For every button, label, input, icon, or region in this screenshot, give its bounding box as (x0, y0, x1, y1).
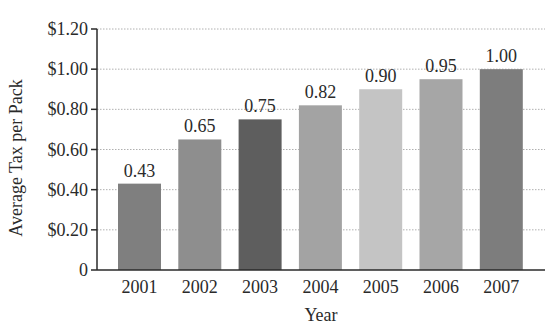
y-tick-label: $0.40 (48, 180, 89, 200)
x-tick-label: 2004 (302, 277, 338, 297)
data-label-2003: 0.75 (244, 96, 276, 116)
bar-chart: 0$0.20$0.40$0.60$0.80$1.00$1.20 20012002… (0, 0, 551, 332)
bar-2001 (118, 184, 161, 270)
x-axis-title: Year (304, 305, 337, 325)
data-label-2006: 0.95 (425, 56, 457, 76)
bar-2003 (239, 119, 282, 270)
x-tick-label: 2007 (483, 277, 519, 297)
data-label-2004: 0.82 (305, 82, 337, 102)
y-axis-title: Average Tax per Pack (6, 79, 26, 237)
x-tick-label: 2001 (122, 277, 158, 297)
y-tick-label: 0 (79, 260, 88, 280)
data-label-2005: 0.90 (365, 66, 397, 86)
y-tick-label: $0.20 (48, 220, 89, 240)
x-tick-labels: 2001200220032004200520062007 (122, 277, 520, 297)
data-label-2001: 0.43 (124, 161, 156, 181)
y-tick-label: $0.60 (48, 140, 89, 160)
bar-2007 (480, 69, 523, 270)
bar-2005 (359, 89, 402, 270)
y-tick-labels: 0$0.20$0.40$0.60$0.80$1.00$1.20 (48, 19, 89, 280)
x-tick-label: 2002 (182, 277, 218, 297)
bar-2004 (299, 105, 342, 270)
x-tick-label: 2005 (363, 277, 399, 297)
x-tick-label: 2003 (242, 277, 278, 297)
bar-2002 (178, 139, 221, 270)
y-tick-label: $0.80 (48, 99, 89, 119)
data-label-2007: 1.00 (486, 46, 518, 66)
y-tick-label: $1.20 (48, 19, 89, 39)
y-tick-label: $1.00 (48, 59, 89, 79)
data-label-2002: 0.65 (184, 116, 216, 136)
bar-2006 (420, 79, 463, 270)
x-tick-label: 2006 (423, 277, 459, 297)
